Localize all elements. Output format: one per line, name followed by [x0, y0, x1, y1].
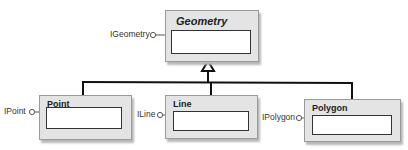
class-polygon: Polygon — [304, 99, 401, 142]
class-line: Line — [165, 95, 258, 139]
class-geometry-body — [171, 30, 251, 54]
class-geometry-name: Geometry — [176, 15, 227, 27]
interface-ipoint-label: IPoint — [4, 106, 26, 116]
class-line-body — [173, 111, 249, 131]
class-geometry: Geometry — [165, 10, 259, 62]
class-line-name: Line — [173, 99, 192, 109]
class-polygon-body — [312, 115, 392, 135]
interface-ipolygon-label: IPolygon — [262, 112, 295, 122]
class-diagram: Geometry IGeometry Point IPoint Line ILi… — [0, 0, 408, 150]
class-point-body — [46, 107, 122, 129]
class-polygon-name: Polygon — [312, 103, 348, 113]
generalization-arrow-icon — [202, 61, 214, 71]
interface-iline-label: ILine — [137, 109, 155, 119]
interface-igeometry-label: IGeometry — [110, 29, 150, 39]
class-point: Point — [39, 95, 132, 140]
